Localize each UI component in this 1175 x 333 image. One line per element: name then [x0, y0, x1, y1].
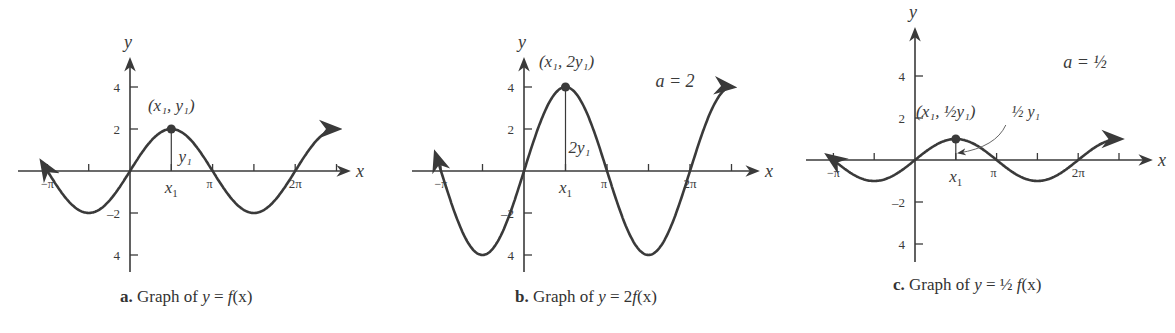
segment-label: y₁ [177, 147, 192, 166]
caption-a-rest: (x) [233, 287, 253, 306]
y-tick-label: 2 [114, 122, 121, 137]
x-tick-label: π [991, 166, 997, 180]
segment-label: 2y₁ [569, 138, 591, 157]
y-tick-label: 2 [899, 111, 906, 126]
y-tick-label: –2 [106, 206, 120, 221]
caption-a-y: y [202, 287, 210, 306]
caption-c-letter: c. [893, 275, 905, 294]
caption-a-text: Graph of [133, 287, 202, 306]
caption-b-text: Graph of [529, 287, 598, 306]
y-tick-label: 4 [508, 80, 515, 95]
y-tick-label: 4 [899, 69, 906, 84]
segment-label: ½ y₁ [1011, 103, 1040, 121]
caption-b-rest: (x) [637, 287, 657, 306]
x-tick-label: 2π [1072, 165, 1086, 180]
caption-c-y: y [974, 275, 982, 294]
y-axis-label: y [907, 2, 917, 22]
y-axis-label: y [516, 32, 526, 52]
caption-c-text: Graph of [905, 275, 974, 294]
y-tick-label: 4 [508, 248, 515, 263]
y-tick-label: –2 [891, 195, 905, 210]
caption-b: b. Graph of y = 2f(x) [515, 287, 657, 307]
max-point [167, 125, 176, 134]
panel-a: xy−πx1π2π42–24(x₁, y₁)y₁ [18, 32, 364, 272]
a-annotation: a = ½ [1063, 52, 1107, 72]
y-axis-label: y [122, 32, 132, 52]
caption-b-y: y [598, 287, 606, 306]
x-axis-label: x [764, 161, 773, 181]
point-label: (x₁, ½y₁) [916, 102, 976, 121]
x-tick-label: x1 [948, 167, 962, 188]
caption-b-letter: b. [515, 287, 529, 306]
caption-c: c. Graph of y = ½ f(x) [893, 275, 1041, 295]
x-tick-label: π [601, 177, 607, 191]
x-axis-label: x [1157, 150, 1166, 170]
caption-a-eq: = [210, 287, 228, 306]
max-point [561, 83, 570, 92]
caption-b-eq: = 2 [606, 287, 633, 306]
point-label: (x₁, y₁) [148, 96, 195, 115]
x-tick-label: π [207, 177, 213, 191]
max-point [951, 135, 960, 144]
y-tick-label: 4 [899, 237, 906, 252]
y-tick-label: 4 [114, 80, 121, 95]
x-axis-label: x [355, 161, 364, 181]
caption-c-rest: (x) [1022, 275, 1042, 294]
y-tick-label: 2 [508, 122, 515, 137]
caption-a: a. Graph of y = f(x) [120, 287, 252, 307]
panel-c: xy−πx1π2π42–24(x₁, ½y₁)½ y₁a = ½ [806, 2, 1166, 262]
caption-c-eq: = ½ [982, 275, 1017, 294]
caption-a-letter: a. [120, 287, 133, 306]
x-tick-label: x1 [558, 178, 572, 199]
point-label: (x₁, 2y₁) [539, 52, 595, 71]
x-tick-label: −π [827, 166, 840, 180]
x-tick-label: x1 [164, 178, 178, 199]
y-tick-label: 4 [114, 248, 121, 263]
panel-b: xy−πx1π2π42–24(x₁, 2y₁)2y₁a = 2 [412, 32, 773, 272]
a-annotation: a = 2 [655, 71, 694, 91]
